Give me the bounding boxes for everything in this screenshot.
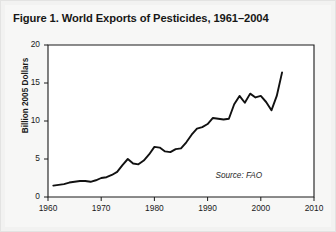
figure-inner-panel: Figure 1. World Exports of Pesticides, 1… [5,5,331,227]
y-axis-tick-label: 20 [18,39,40,49]
plot-area-wrapper: Billion 2005 Dollars 05101520 1960197019… [5,5,333,229]
x-axis-ticks [48,197,314,201]
figure-panel: Figure 1. World Exports of Pesticides, 1… [0,0,336,232]
source-note: Source: FAO [215,171,262,180]
y-axis-tick-label: 10 [18,115,40,125]
x-axis-tick-label: 1970 [81,203,121,213]
y-axis-tick-label: 15 [18,77,40,87]
x-axis-tick-label: 1980 [134,203,174,213]
x-axis-tick-label: 1960 [28,203,68,213]
y-axis-tick-label: 0 [18,191,40,201]
plot-background [48,45,314,197]
x-axis-tick-label: 1990 [188,203,228,213]
x-axis-tick-label: 2000 [241,203,281,213]
chart-canvas [5,5,333,229]
y-axis-ticks [44,45,48,197]
y-axis-tick-label: 5 [18,153,40,163]
x-axis-tick-label: 2010 [294,203,334,213]
